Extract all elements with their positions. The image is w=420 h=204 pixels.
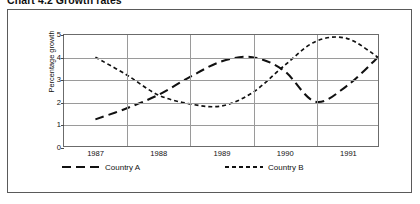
x-axis-tick-label: 1991 bbox=[340, 150, 357, 158]
legend-entry-country-b: Country B bbox=[225, 160, 304, 174]
gridline-vertical bbox=[127, 35, 128, 146]
gridline-vertical bbox=[254, 35, 255, 146]
gridline-horizontal bbox=[64, 80, 378, 81]
page-title: Chart 4.2 Growth rates bbox=[7, 0, 122, 6]
legend-label-country-a: Country A bbox=[105, 163, 140, 172]
x-axis-tick-label: 1987 bbox=[87, 150, 104, 158]
y-axis-tick-mark bbox=[61, 35, 64, 36]
y-axis-label: Percentage growth bbox=[47, 2, 56, 122]
y-axis-tick-mark bbox=[61, 103, 64, 104]
line-country-a bbox=[95, 57, 378, 120]
y-axis-tick-mark bbox=[61, 58, 64, 59]
x-axis-tick-label: 1990 bbox=[277, 150, 294, 158]
legend-entry-country-a: Country A bbox=[62, 160, 140, 174]
gridline-horizontal bbox=[64, 58, 378, 59]
gridline-vertical bbox=[190, 35, 191, 146]
legend-label-country-b: Country B bbox=[268, 163, 304, 172]
line-country-b bbox=[95, 37, 378, 107]
y-axis-tick-mark bbox=[61, 125, 64, 126]
x-axis-tick-label: 1989 bbox=[214, 150, 231, 158]
legend: Country A Country B bbox=[7, 160, 412, 182]
y-axis-tick-mark bbox=[61, 148, 64, 149]
gridline-vertical bbox=[317, 35, 318, 146]
plot-area: 01234519871988198919901991 bbox=[63, 34, 379, 147]
chart-figure: Chart 4.2 Growth rates Percentage growth… bbox=[0, 0, 420, 204]
series-lines bbox=[64, 35, 378, 146]
y-axis-tick-mark bbox=[61, 80, 64, 81]
gridline-horizontal bbox=[64, 103, 378, 104]
x-axis-tick-label: 1988 bbox=[150, 150, 167, 158]
gridline-horizontal bbox=[64, 125, 378, 126]
legend-swatch-long-dash bbox=[62, 163, 100, 171]
legend-swatch-short-dash bbox=[225, 163, 263, 171]
